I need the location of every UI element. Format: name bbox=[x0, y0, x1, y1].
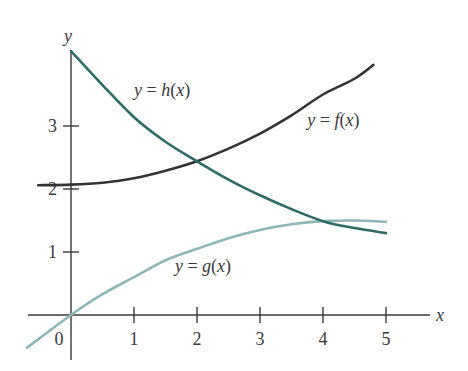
x-tick-label: 0 bbox=[55, 329, 64, 349]
curve-label-h: y = h(x) bbox=[132, 80, 190, 101]
y-tick-label: 3 bbox=[48, 116, 57, 136]
x-tick-label: 4 bbox=[319, 329, 328, 349]
y-tick-label: 2 bbox=[48, 179, 57, 199]
x-tick-label: 3 bbox=[256, 329, 265, 349]
curve-g bbox=[27, 220, 386, 347]
function-graph: x y 012345 123 y = f(x) y = g(x) y = h(x… bbox=[0, 0, 468, 371]
curve-label-g: y = g(x) bbox=[173, 256, 231, 277]
y-axis-label: y bbox=[62, 26, 72, 46]
y-tick-label: 1 bbox=[48, 242, 57, 262]
curve-h bbox=[71, 51, 386, 233]
curve-label-f: y = f(x) bbox=[305, 110, 359, 131]
x-tick-label: 5 bbox=[382, 329, 391, 349]
y-ticks: 123 bbox=[48, 116, 79, 262]
x-tick-label: 2 bbox=[193, 329, 202, 349]
x-ticks: 012345 bbox=[55, 307, 391, 349]
x-tick-label: 1 bbox=[130, 329, 139, 349]
x-axis-label: x bbox=[435, 305, 444, 325]
